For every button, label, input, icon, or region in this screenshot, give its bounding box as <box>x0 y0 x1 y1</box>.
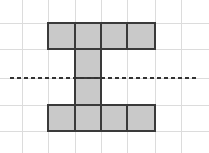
figure-canvas <box>0 0 209 153</box>
symmetry-line-layer <box>0 0 209 153</box>
